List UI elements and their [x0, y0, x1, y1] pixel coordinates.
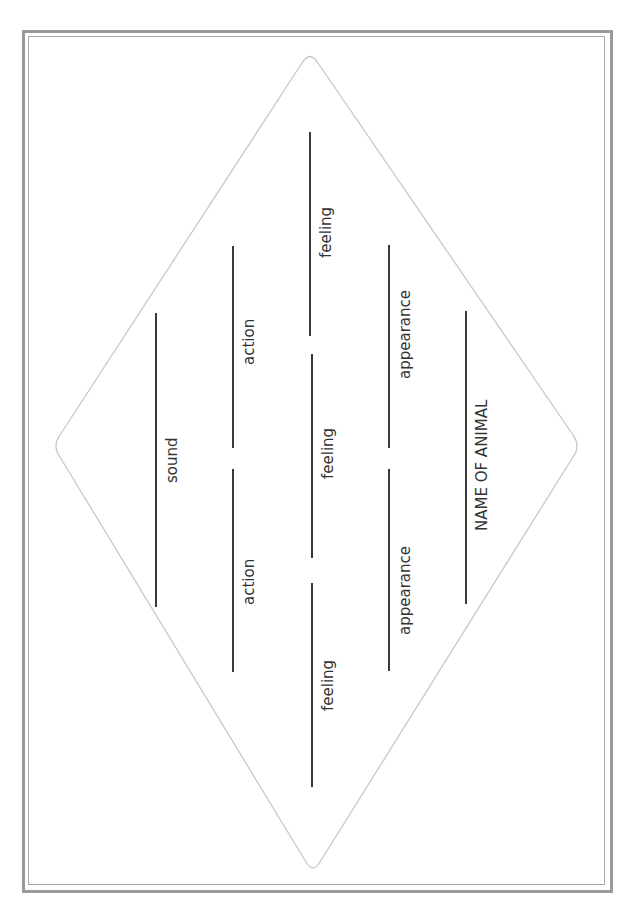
feeling-answer-line-bottom[interactable]	[311, 583, 313, 787]
action-label-bottom: action	[240, 559, 258, 605]
feeling-label-bottom: feeling	[319, 660, 337, 711]
appearance-answer-line-bottom[interactable]	[388, 469, 390, 671]
name-of-animal-label: NAME OF ANIMAL	[473, 400, 491, 531]
appearance-label-bottom: appearance	[396, 546, 414, 635]
action-answer-line-top[interactable]	[232, 246, 234, 448]
sound-label: sound	[163, 437, 181, 483]
appearance-answer-line-top[interactable]	[388, 245, 390, 448]
feeling-answer-line-top[interactable]	[309, 132, 311, 336]
action-answer-line-bottom[interactable]	[232, 469, 234, 672]
name-answer-line[interactable]	[465, 311, 467, 604]
feeling-label-middle: feeling	[319, 428, 337, 479]
feeling-answer-line-middle[interactable]	[311, 354, 313, 558]
feeling-label-top: feeling	[317, 207, 335, 258]
sound-answer-line[interactable]	[155, 313, 157, 607]
appearance-label-top: appearance	[396, 290, 414, 379]
action-label-top: action	[240, 319, 258, 365]
diamond-shape	[0, 0, 633, 917]
